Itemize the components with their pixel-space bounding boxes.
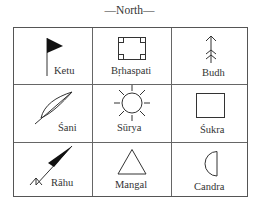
cell-brhaspati: Bṛhaspati xyxy=(93,28,172,85)
planet-label: Śani xyxy=(58,122,77,133)
cell-ketu: Ketu xyxy=(14,28,93,85)
square-corners-icon xyxy=(118,37,146,61)
cell-surya: Sūrya xyxy=(93,85,172,143)
planet-label: Rāhu xyxy=(51,177,73,188)
planet-label: Śukra xyxy=(200,124,225,135)
cell-sani: Śani xyxy=(14,85,93,143)
cell-mangal: Mangal xyxy=(93,143,172,196)
planet-label: Bṛhaspati xyxy=(111,65,151,76)
square-icon xyxy=(196,93,226,119)
planet-label: Mangal xyxy=(115,179,147,190)
cell-budh: Budh xyxy=(172,28,247,85)
planet-label: Candra xyxy=(194,181,224,192)
cell-rahu: Rāhu xyxy=(14,143,93,196)
half-moon-icon xyxy=(204,151,220,177)
triangle-icon xyxy=(117,149,147,175)
cell-candra: Candra xyxy=(172,143,247,196)
sun-icon xyxy=(112,85,152,121)
planet-grid: Ketu Bṛhaspati Budh Śani xyxy=(13,27,248,197)
planet-label: Sūrya xyxy=(117,122,142,133)
cell-sukra: Śukra xyxy=(172,85,247,143)
bow-icon xyxy=(34,91,72,125)
diagram-title: —North— xyxy=(0,4,259,16)
planet-label: Budh xyxy=(202,67,225,78)
planet-label: Ketu xyxy=(54,65,74,76)
arrow-up-icon xyxy=(204,36,218,64)
